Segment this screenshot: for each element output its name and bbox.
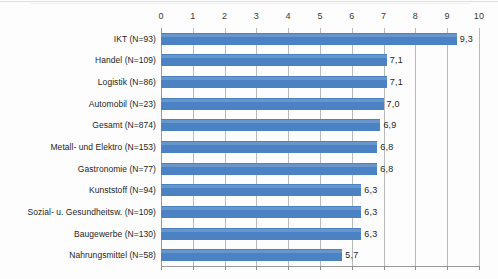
bar (161, 184, 361, 196)
category-label: Baugewerbe (N=130) (0, 229, 156, 239)
bar (161, 76, 387, 88)
bar (161, 54, 387, 66)
x-tick-label: 2 (222, 11, 227, 21)
gridline-8 (415, 28, 416, 266)
value-label: 9,3 (460, 34, 473, 44)
value-label: 7,1 (390, 77, 403, 87)
bar-highlight (161, 34, 457, 37)
bar (161, 141, 377, 153)
bar-highlight (161, 164, 377, 167)
tick-mark-4 (288, 266, 289, 270)
tick-mark-9 (447, 266, 448, 270)
scan-artifact-line-secondary (30, 3, 470, 4)
bar-highlight (161, 250, 342, 253)
category-label: Gesamt (N=874) (0, 120, 156, 130)
bar (161, 163, 377, 175)
bar-highlight (161, 77, 387, 80)
bar-highlight (161, 55, 387, 58)
tick-mark-1 (193, 266, 194, 270)
bar-highlight (161, 120, 380, 123)
value-label: 7,1 (390, 55, 403, 65)
x-tick-label: 4 (286, 11, 291, 21)
category-label: Logistik (N=86) (0, 77, 156, 87)
tick-mark-10 (479, 266, 480, 270)
gridline-10 (479, 28, 480, 266)
x-tick-label: 6 (349, 11, 354, 21)
x-tick-label: 10 (474, 11, 484, 21)
x-tick-label: 8 (413, 11, 418, 21)
value-label: 6,3 (364, 229, 377, 239)
plot-area (161, 28, 479, 266)
tick-mark-7 (384, 266, 385, 270)
category-label: Metall- und Elektro (N=153) (0, 142, 156, 152)
x-tick-label: 3 (254, 11, 259, 21)
tick-mark-3 (256, 266, 257, 270)
x-tick-label: 5 (317, 11, 322, 21)
value-label: 6,8 (380, 164, 393, 174)
bar-highlight (161, 99, 384, 102)
chart-figure: 012345678910 IKT (N=93)Handel (N=109)Log… (0, 0, 498, 279)
value-label: 5,7 (345, 250, 358, 260)
category-label: Sozial- u. Gesundheitsw. (N=109) (0, 207, 156, 217)
bar-highlight (161, 185, 361, 188)
category-label: Nahrungsmittel (N=58) (0, 250, 156, 260)
x-tick-label: 1 (190, 11, 195, 21)
x-tick-label: 9 (445, 11, 450, 21)
tick-mark-2 (225, 266, 226, 270)
bar (161, 119, 380, 131)
gridline-9 (447, 28, 448, 266)
value-label: 6,3 (364, 207, 377, 217)
category-label: Handel (N=109) (0, 55, 156, 65)
category-label: Gastronomie (N=77) (0, 164, 156, 174)
bar (161, 228, 361, 240)
x-tick-label: 7 (381, 11, 386, 21)
bar (161, 249, 342, 261)
value-label: 7,0 (387, 99, 400, 109)
bar-highlight (161, 207, 361, 210)
tick-mark-5 (320, 266, 321, 270)
value-label: 6,3 (364, 185, 377, 195)
bar (161, 98, 384, 110)
bar (161, 33, 457, 45)
bar-highlight (161, 229, 361, 232)
x-tick-label: 0 (158, 11, 163, 21)
scan-artifact-line (0, 1, 498, 2)
tick-mark-6 (352, 266, 353, 270)
category-label: Automobil (N=23) (0, 99, 156, 109)
value-label: 6,8 (380, 142, 393, 152)
tick-mark-8 (415, 266, 416, 270)
category-label: Kunststoff (N=94) (0, 185, 156, 195)
value-label: 6,9 (383, 120, 396, 130)
tick-mark-0 (161, 266, 162, 270)
category-label: IKT (N=93) (0, 34, 156, 44)
bar (161, 206, 361, 218)
bar-highlight (161, 142, 377, 145)
